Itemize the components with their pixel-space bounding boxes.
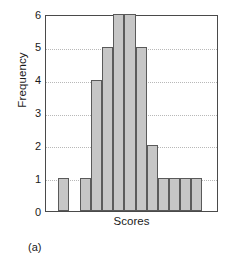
histogram-bar: [180, 178, 191, 211]
x-axis-label: Scores: [45, 215, 218, 227]
histogram-bar: [147, 145, 158, 211]
y-tick-label-4: 4: [25, 75, 41, 86]
histogram-bar: [169, 178, 180, 211]
histogram-bar: [91, 80, 102, 211]
y-axis-tick-labels: 6543210: [23, 15, 41, 212]
histogram-bar: [191, 178, 202, 211]
bars-container: [46, 16, 217, 211]
y-tick-label-1: 1: [25, 174, 41, 185]
histogram-bar: [136, 47, 147, 211]
histogram-bar: [80, 178, 91, 211]
histogram-figure: Frequency 6543210 Scores (a): [0, 0, 235, 269]
histogram-bar: [124, 14, 135, 211]
y-tick-label-0: 0: [25, 207, 41, 218]
y-tick-label-6: 6: [25, 10, 41, 21]
figure-caption: (a): [28, 241, 41, 253]
histogram-bar: [113, 14, 124, 211]
y-tick-label-5: 5: [25, 42, 41, 53]
plot-area: [45, 15, 218, 212]
histogram-bar: [58, 178, 69, 211]
histogram-bar: [158, 178, 169, 211]
histogram-bar: [102, 47, 113, 211]
y-tick-label-2: 2: [25, 141, 41, 152]
y-tick-label-3: 3: [25, 108, 41, 119]
